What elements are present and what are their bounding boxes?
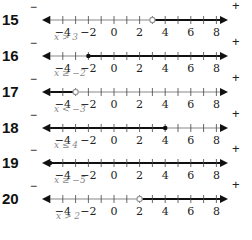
tick-label: 4 <box>162 169 169 182</box>
inequality-caption: x ≥ −2 <box>54 68 86 78</box>
tick-label: 4 <box>162 98 169 111</box>
number-line: −4−202468 <box>0 114 252 150</box>
tick-label: 0 <box>111 26 118 39</box>
tick-label: 2 <box>136 26 143 39</box>
closed-dot-icon <box>48 161 53 166</box>
tick-label: 6 <box>187 169 194 182</box>
number-line: −4−202468 <box>0 185 252 221</box>
closed-dot-icon <box>163 126 168 131</box>
left-arrow-icon <box>42 88 50 96</box>
tick-label: 4 <box>162 205 169 218</box>
inequality-caption: x > 2 <box>56 211 80 221</box>
tick-label: 6 <box>187 205 194 218</box>
tick-label: 0 <box>111 205 118 218</box>
tick-label: 6 <box>187 62 194 75</box>
tick-label: 0 <box>111 62 118 75</box>
right-arrow-icon <box>220 124 228 132</box>
tick-label: 2 <box>136 62 143 75</box>
tick-label: 4 <box>162 62 169 75</box>
number-line-row: 19 − + −4−202468 x ≥ −5 <box>0 149 252 185</box>
tick-label: 8 <box>213 62 220 75</box>
number-line: −4−202468 <box>0 78 252 114</box>
right-arrow-icon <box>220 159 228 167</box>
number-line-row: 18 − + −4−202468 x ≤ 4 <box>0 114 252 150</box>
open-circle-icon <box>73 89 78 94</box>
tick-label: 0 <box>111 134 118 147</box>
number-line-row: 16 − + −4−202468 x ≥ −2 <box>0 42 252 78</box>
number-line: −4−202468 <box>0 42 252 78</box>
open-circle-icon <box>150 17 155 22</box>
right-arrow-icon <box>220 195 228 203</box>
right-arrow-icon <box>220 52 228 60</box>
tick-label: 8 <box>213 169 220 182</box>
tick-label: 6 <box>187 26 194 39</box>
tick-label: 6 <box>187 134 194 147</box>
inequality-caption: x > 3 <box>54 32 78 42</box>
inequality-caption: x ≥ −5 <box>54 175 86 185</box>
tick-label: 8 <box>213 134 220 147</box>
number-line-row: 17 − + −4−202468 x < −3 <box>0 78 252 114</box>
tick-label: 8 <box>213 26 220 39</box>
left-arrow-icon <box>42 124 50 132</box>
tick-label: 8 <box>213 205 220 218</box>
tick-label: 0 <box>111 169 118 182</box>
tick-label: 4 <box>162 134 169 147</box>
number-line-row: 15 − + −4−202468 x > 3 <box>0 6 252 42</box>
right-arrow-icon <box>220 16 228 24</box>
tick-label: 2 <box>136 205 143 218</box>
left-arrow-icon <box>42 16 50 24</box>
number-line: −4−202468 <box>0 6 252 42</box>
tick-label: 2 <box>136 98 143 111</box>
number-line: −4−202468 <box>0 149 252 185</box>
tick-label: 0 <box>111 98 118 111</box>
closed-dot-icon <box>86 54 91 59</box>
tick-label: 2 <box>136 134 143 147</box>
tick-label: 8 <box>213 98 220 111</box>
tick-label: −2 <box>80 205 96 218</box>
tick-label: 2 <box>136 169 143 182</box>
tick-label: −2 <box>80 134 96 147</box>
tick-label: 4 <box>162 26 169 39</box>
inequality-caption: x < −3 <box>54 104 86 114</box>
number-line-row: 20 − + −4−202468 x > 2 <box>0 185 252 221</box>
tick-label: 6 <box>187 98 194 111</box>
left-arrow-icon <box>42 195 50 203</box>
tick-label: −2 <box>80 26 96 39</box>
open-circle-icon <box>137 196 142 201</box>
left-arrow-icon <box>42 52 50 60</box>
right-arrow-icon <box>220 88 228 96</box>
